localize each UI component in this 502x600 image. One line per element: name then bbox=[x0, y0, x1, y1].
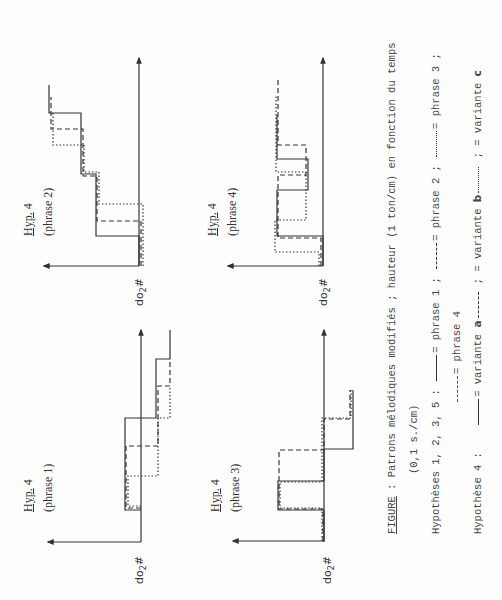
octave-number: 2 bbox=[139, 287, 148, 292]
sharp-sign: # bbox=[321, 556, 334, 565]
legend-phrase-4: = phrase 4 bbox=[451, 311, 463, 374]
series-variante-a bbox=[278, 390, 353, 541]
legend-variante-c-text: ; = variante bbox=[472, 83, 484, 165]
caption-line-5: Hypothèse 4 : = variante a ; = variante … bbox=[472, 70, 484, 534]
note-name: do bbox=[321, 570, 334, 584]
note-name: do bbox=[133, 292, 146, 306]
hyp-label: Hyp. bbox=[205, 212, 219, 236]
hyp-label: Hyp. bbox=[208, 488, 222, 512]
panel-subtitle-phrase-3: (phrase 3) bbox=[229, 464, 241, 512]
sharp-sign: # bbox=[133, 278, 146, 287]
series-variante-b bbox=[126, 359, 170, 508]
panel-subtitle-phrase-1: (phrase 1) bbox=[42, 464, 54, 512]
legend-phrase-2: = phrase 2 ; bbox=[430, 165, 442, 241]
legend-dash-dot-line bbox=[457, 376, 458, 402]
note-name: do bbox=[317, 292, 330, 306]
series-variante-c bbox=[53, 113, 143, 266]
caption-figure-word: FIGURE bbox=[386, 496, 398, 534]
series-variante-b bbox=[278, 80, 321, 266]
panel-title-phrase-2: Hyp. 4 bbox=[22, 203, 34, 236]
series-variante-b bbox=[279, 390, 350, 541]
legend-dashed-line bbox=[436, 243, 437, 269]
caption-line-4: = phrase 4 bbox=[452, 311, 463, 404]
panel-title-phrase-1: Hyp. 4 bbox=[22, 479, 34, 512]
series-variante-a bbox=[277, 115, 323, 266]
reference-pitch-label-phrase-1: do2# bbox=[134, 556, 148, 584]
octave-number: 2 bbox=[323, 287, 332, 292]
hyp-number: 4 bbox=[21, 479, 35, 485]
caption-hypothesis-4: Hypothèse 4 : bbox=[472, 452, 484, 534]
note-name: do bbox=[133, 570, 146, 584]
legend-solid-line bbox=[436, 355, 437, 381]
panel-subtitle-phrase-4: (phrase 4) bbox=[226, 188, 238, 236]
panel-title-phrase-4: Hyp. 4 bbox=[206, 203, 218, 236]
series-variante-c bbox=[275, 96, 319, 266]
caption-line-2: (0,1 s./cm) bbox=[409, 405, 420, 474]
sharp-sign: # bbox=[133, 556, 146, 565]
figure-graphics bbox=[0, 0, 502, 600]
panel-subtitle-phrase-2: (phrase 2) bbox=[42, 188, 54, 236]
figure-page: Hyp. 4 (phrase 2) Hyp. 4 (phrase 4) Hyp.… bbox=[0, 0, 502, 600]
sharp-sign: # bbox=[317, 278, 330, 287]
legend-phrase-1: = phrase 1 ; bbox=[430, 277, 442, 353]
octave-number: 2 bbox=[139, 565, 148, 570]
legend-dashed-line bbox=[478, 292, 479, 318]
hyp-label: Hyp. bbox=[21, 488, 35, 512]
chart-phrase-2 bbox=[44, 58, 143, 266]
reference-pitch-label-phrase-4: do2# bbox=[318, 278, 332, 306]
hyp-label: Hyp. bbox=[21, 212, 35, 236]
legend-variante-b-letter: b bbox=[471, 195, 483, 203]
octave-number: 2 bbox=[327, 565, 336, 570]
series-variante-a bbox=[125, 330, 170, 510]
legend-variante-b-text: ; = variante bbox=[472, 209, 484, 291]
legend-phrase-3: = phrase 3 ; bbox=[430, 53, 442, 129]
chart-phrase-4 bbox=[228, 58, 323, 266]
hyp-number: 4 bbox=[208, 479, 222, 485]
hyp-number: 4 bbox=[205, 203, 219, 209]
caption-hypotheses-1-2-3-5: Hypothèses 1, 2, 3, 5 : bbox=[430, 389, 442, 534]
legend-variante-c-letter: c bbox=[471, 70, 483, 76]
caption-title: : Patrons mélodiques modifiés ; hauteur … bbox=[386, 43, 398, 497]
hyp-number: 4 bbox=[21, 203, 35, 209]
caption-line-1: FIGURE : Patrons mélodiques modifiés ; h… bbox=[387, 43, 398, 535]
series-variante-c bbox=[280, 390, 351, 541]
legend-variante-a-letter: a bbox=[471, 320, 483, 327]
legend-solid-line bbox=[478, 399, 479, 425]
reference-pitch-label-phrase-3: do2# bbox=[322, 556, 336, 584]
legend-dotted-line bbox=[478, 167, 479, 193]
panel-title-phrase-3: Hyp. 4 bbox=[209, 479, 221, 512]
caption-line-3: Hypothèses 1, 2, 3, 5 : = phrase 1 ; = p… bbox=[431, 53, 442, 534]
reference-pitch-label-phrase-2: do2# bbox=[134, 278, 148, 306]
legend-dotted-line bbox=[436, 131, 437, 157]
chart-phrase-3 bbox=[233, 330, 353, 542]
chart-phrase-1 bbox=[48, 330, 170, 542]
legend-variante-a-text: = variante bbox=[472, 334, 484, 397]
